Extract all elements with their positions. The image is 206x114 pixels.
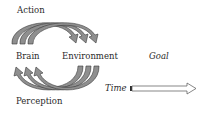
brain-label: Brain (16, 51, 40, 61)
action-label: Action (16, 5, 45, 15)
goal-label: Goal (149, 51, 169, 61)
perception-label: Perception (16, 96, 63, 106)
environment-label: Environment (62, 51, 118, 61)
time-arrow-icon (130, 83, 196, 94)
time-label: Time (105, 83, 126, 93)
perception-arrows (14, 66, 99, 90)
brain-environment-loop-diagram: Action Brain Environment Goal Time Perce… (0, 0, 206, 114)
action-arrows (12, 23, 98, 44)
